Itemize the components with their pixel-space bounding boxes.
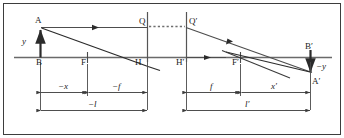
label-dim-f-prime: f (210, 82, 213, 91)
ray-focal-incident (42, 28, 149, 67)
label-point-a: A (35, 16, 42, 25)
label-dim-x-prime: x′ (271, 82, 277, 91)
label-dim-minus-l: −l (88, 100, 97, 109)
label-dim-minus-f: −f (112, 82, 121, 91)
label-point-h: H (135, 58, 142, 67)
figure-border (4, 4, 341, 135)
label-point-b-prime: B′ (305, 42, 313, 51)
label-point-h-prime: H′ (176, 58, 184, 67)
ray-focal-refracted-arrowhead (204, 55, 211, 60)
label-point-q: Q (139, 17, 146, 26)
ray-focal-incident-stub (148, 67, 160, 71)
label-point-f: F (81, 58, 86, 67)
ray-parallel-refracted (186, 28, 312, 73)
label-dim-minus-x: −x (58, 82, 68, 91)
label-object-height: y (22, 37, 26, 46)
label-point-f-prime: F′ (232, 58, 239, 67)
label-point-q-prime: Q′ (189, 17, 197, 26)
diagram-canvas (0, 0, 344, 138)
ray-parallel-incident-arrowhead (92, 25, 99, 30)
label-point-b: B (36, 58, 42, 67)
label-dim-l-prime: l′ (245, 100, 249, 109)
label-image-height: −y (316, 62, 326, 71)
label-point-a-prime: A′ (312, 77, 320, 86)
ray-diagram-figure: A y B F H Q Q′ H′ F′ B′ −y A′ −x −f f x′… (0, 0, 344, 138)
